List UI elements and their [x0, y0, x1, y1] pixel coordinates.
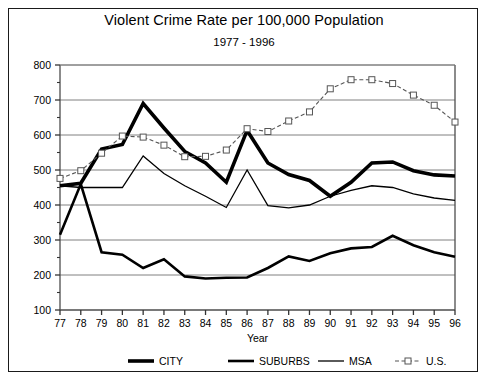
x-tick-label: 80: [117, 317, 129, 329]
y-tick-label: 400: [33, 199, 51, 211]
x-tick-label: 90: [324, 317, 336, 329]
x-tick-label: 78: [75, 317, 87, 329]
legend-label: SUBURBS: [259, 356, 310, 367]
x-tick-label: 95: [428, 317, 440, 329]
legend-swatch-us: [395, 355, 421, 367]
data-point-marker: [244, 126, 250, 132]
y-tick-label: 500: [33, 164, 51, 176]
data-point-marker: [57, 175, 63, 181]
legend-item-msa[interactable]: MSA: [318, 352, 372, 370]
legend-label: U.S.: [426, 356, 446, 367]
y-tick-label: 300: [33, 234, 51, 246]
x-tick-label: 94: [408, 317, 420, 329]
series-line-city: [60, 104, 455, 197]
legend-item-us[interactable]: U.S.: [395, 352, 446, 370]
x-tick-label: 81: [137, 317, 149, 329]
data-point-marker: [161, 142, 167, 148]
legend-swatch-city: [128, 355, 154, 367]
x-tick-label: 86: [241, 317, 253, 329]
data-point-marker: [265, 129, 271, 135]
x-tick-label: 85: [220, 317, 232, 329]
x-tick-label: 89: [304, 317, 316, 329]
legend-swatch-suburbs: [228, 355, 254, 367]
legend-label: MSA: [349, 356, 372, 367]
x-tick-label: 83: [179, 317, 191, 329]
chart-legend: CITYSUBURBSMSAU.S.: [0, 352, 488, 372]
y-tick-label: 700: [33, 94, 51, 106]
legend-label: CITY: [159, 356, 183, 367]
data-point-marker: [306, 109, 312, 115]
x-tick-label: 93: [387, 317, 399, 329]
x-tick-label: 77: [54, 317, 66, 329]
data-point-marker: [203, 153, 209, 159]
legend-swatch-msa: [318, 355, 344, 367]
data-point-marker: [348, 77, 354, 83]
x-tick-label: 79: [96, 317, 108, 329]
series-line-suburbs: [60, 184, 455, 279]
legend-item-suburbs[interactable]: SUBURBS: [228, 352, 310, 370]
y-tick-label: 600: [33, 129, 51, 141]
data-point-marker: [140, 134, 146, 140]
data-point-marker: [410, 92, 416, 98]
x-tick-label: 87: [262, 317, 274, 329]
x-tick-label: 88: [283, 317, 295, 329]
data-point-marker: [78, 168, 84, 174]
y-tick-label: 800: [33, 59, 51, 71]
x-tick-label: 96: [449, 317, 461, 329]
x-tick-label: 91: [345, 317, 357, 329]
data-point-marker: [99, 150, 105, 156]
data-point-marker: [223, 147, 229, 153]
plot-area: 1002003004005006007008007778798081828384…: [0, 0, 488, 382]
data-point-marker: [119, 133, 125, 139]
data-point-marker: [452, 119, 458, 125]
chart-svg: 1002003004005006007008007778798081828384…: [0, 0, 488, 382]
x-tick-label: 82: [158, 317, 170, 329]
data-point-marker: [431, 102, 437, 108]
y-tick-label: 200: [33, 269, 51, 281]
x-tick-label: 84: [200, 317, 212, 329]
x-axis-label: Year: [247, 332, 269, 344]
legend-item-city[interactable]: CITY: [128, 352, 183, 370]
y-tick-label: 100: [33, 304, 51, 316]
data-point-marker: [390, 81, 396, 87]
data-point-marker: [182, 154, 188, 160]
x-tick-label: 92: [366, 317, 378, 329]
data-point-marker: [327, 86, 333, 92]
data-point-marker: [286, 118, 292, 124]
data-point-marker: [369, 77, 375, 83]
